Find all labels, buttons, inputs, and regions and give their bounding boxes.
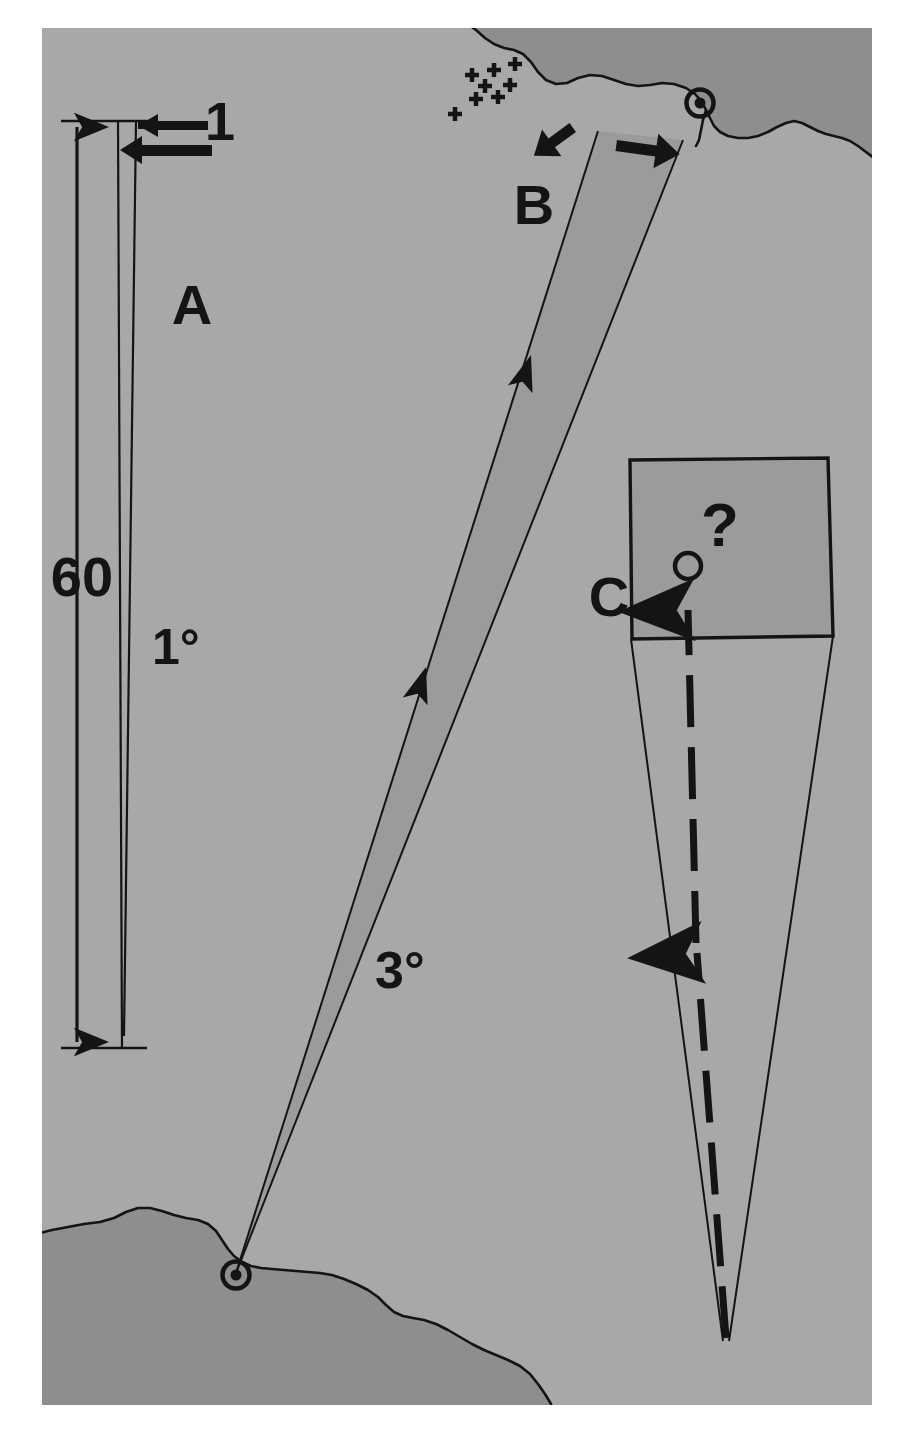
figure-canvas: 1 A 60 1° B 3° C ? (0, 0, 899, 1449)
label-panel-b: B (514, 173, 554, 236)
label-panel-c: C (589, 565, 629, 628)
label-scale-60: 60 (51, 545, 113, 608)
label-scale-1: 1 (205, 91, 235, 151)
diagram-svg: 1 A 60 1° B 3° C ? (42, 28, 872, 1405)
label-angle-3deg: 3° (375, 941, 425, 999)
diagram-panel: 1 A 60 1° B 3° C ? (42, 28, 872, 1405)
label-angle-1deg: 1° (152, 619, 200, 675)
water-background (42, 28, 872, 1405)
label-panel-a: A (172, 273, 212, 336)
label-question: ? (701, 490, 739, 559)
